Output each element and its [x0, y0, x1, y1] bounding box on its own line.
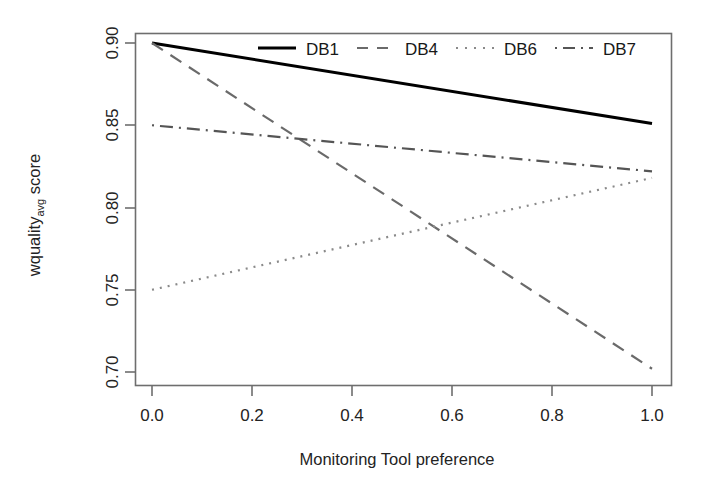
y-tick-label-3: 0.75 [103, 273, 122, 306]
x-tick-label-2: 0.4 [340, 406, 364, 425]
legend-entry-DB7: DB7 [555, 40, 636, 59]
x-tick-label-0: 0.0 [140, 406, 164, 425]
x-axis-tick-labels: 0.0 0.2 0.4 0.6 0.8 1.0 [140, 406, 664, 425]
x-axis-ticks [152, 386, 652, 397]
series-line-DB6 [152, 178, 652, 290]
legend-label-2: DB6 [504, 40, 537, 59]
y-tick-label-2: 0.80 [103, 191, 122, 224]
x-axis-title: Monitoring Tool preference [299, 450, 494, 468]
y-axis-title-subscript: avg [34, 199, 46, 217]
data-series-group [152, 43, 652, 369]
x-tick-label-1: 0.2 [240, 406, 264, 425]
y-axis-title-base: wquality [25, 216, 43, 277]
series-line-DB7 [152, 125, 652, 171]
series-line-DB1 [152, 43, 652, 124]
line-chart-canvas: 0.90 0.85 0.80 0.75 0.70 wqualityavg sco… [0, 0, 704, 497]
y-axis-title-main: wqualityavg score [25, 154, 46, 277]
legend-label-3: DB7 [603, 40, 636, 59]
legend-entry-DB6: DB6 [456, 40, 537, 59]
y-tick-label-0: 0.90 [103, 26, 122, 59]
x-tick-label-4: 0.8 [540, 406, 564, 425]
x-tick-label-3: 0.6 [440, 406, 464, 425]
y-tick-label-1: 0.85 [103, 108, 122, 141]
y-axis-ticks [125, 43, 136, 372]
chart-figure: 0.90 0.85 0.80 0.75 0.70 wqualityavg sco… [0, 0, 704, 497]
legend-label-0: DB1 [306, 40, 339, 59]
y-axis-tick-labels: 0.90 0.85 0.80 0.75 0.70 [103, 26, 122, 388]
y-axis-title-tail: score [25, 154, 43, 199]
legend-entry-DB1: DB1 [258, 40, 339, 59]
plot-frame [136, 34, 672, 386]
x-tick-label-5: 1.0 [640, 406, 664, 425]
y-tick-label-4: 0.70 [103, 355, 122, 388]
chart-legend: DB1 DB4 DB6 DB7 [258, 40, 636, 59]
y-axis-title: wqualityavg score [25, 154, 46, 277]
legend-label-1: DB4 [405, 40, 438, 59]
series-line-DB4 [152, 43, 652, 369]
legend-entry-DB4: DB4 [357, 40, 438, 59]
